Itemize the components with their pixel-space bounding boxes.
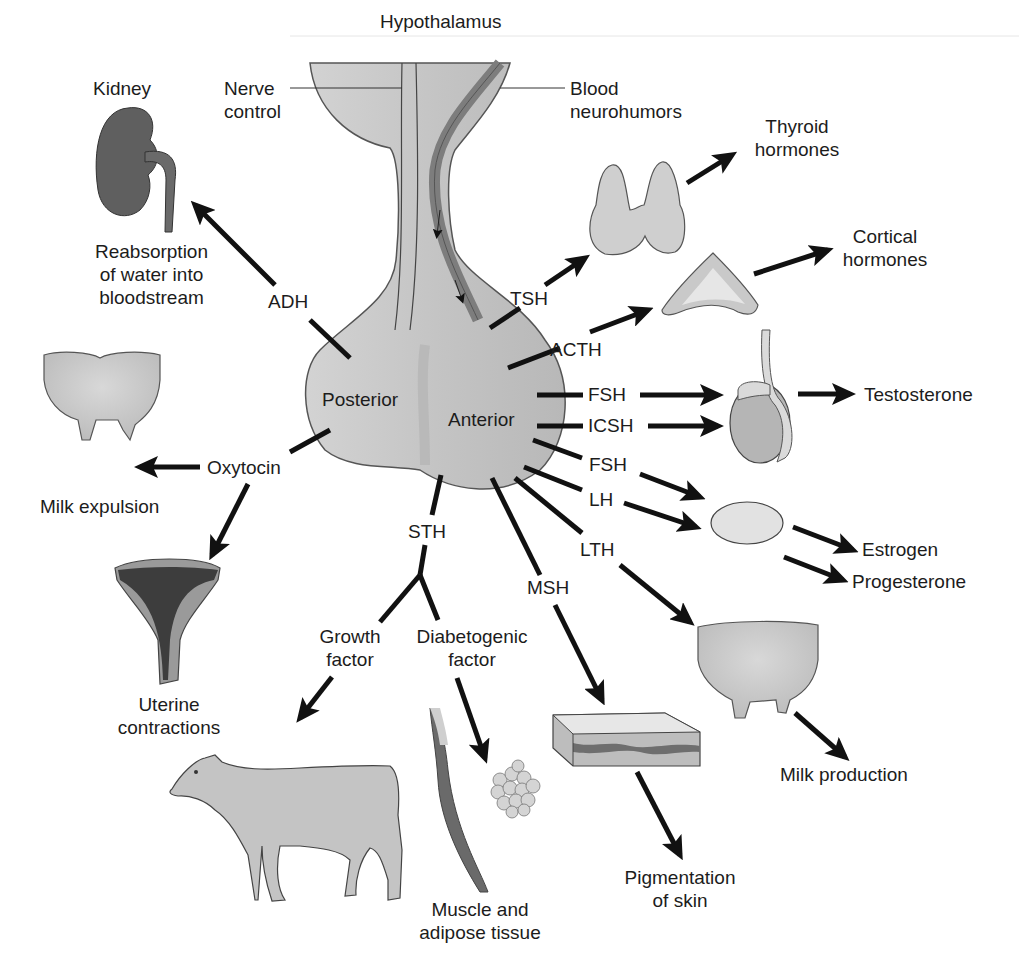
thyroid-hormones-label: Thyroid hormones [742,115,852,161]
adh-label: ADH [268,290,308,313]
testis-illustration [730,330,792,463]
anterior-lobe-label: Anterior [448,408,515,431]
nerve-control-label: Nerve control [224,77,281,123]
cortical-hormones-label: Cortical hormones [830,225,940,271]
milk-production-label: Milk production [780,763,908,786]
reabsorption-label: Reabsorption of water into bloodstream [84,240,219,309]
pituitary-hormone-diagram: Hypothalamus Nerve control Blood neurohu… [0,0,1019,974]
adrenal-illustration [662,253,758,315]
fsh-label-testis: FSH [588,383,626,406]
diabetogenic-factor-label: Diabetogenic factor [402,625,542,671]
udder-illustration-right [698,621,818,718]
lth-label: LTH [580,538,614,561]
cow-illustration [170,755,402,901]
oxytocin-label: Oxytocin [207,456,281,479]
fsh-label-ovary: FSH [589,453,627,476]
lh-label: LH [589,488,613,511]
udder-illustration-left [44,352,160,440]
sth-label: STH [408,520,446,543]
thyroid-illustration [590,162,685,255]
icsh-label: ICSH [588,414,633,437]
diagram-graphics [0,0,1019,974]
growth-factor-label: Growth factor [305,625,395,671]
progesterone-label: Progesterone [852,570,966,593]
uterus-illustration [115,559,220,684]
kidney-illustration [96,108,175,232]
posterior-lobe-label: Posterior [322,388,398,411]
testosterone-label: Testosterone [864,383,973,406]
hypothalamus-label: Hypothalamus [380,10,501,33]
pituitary-gland [306,63,566,489]
adipose-tissue-illustration [491,760,540,818]
estrogen-label: Estrogen [862,538,938,561]
pigmentation-label: Pigmentation of skin [610,866,750,912]
acth-label: ACTH [550,338,602,361]
muscle-adipose-label: Muscle and adipose tissue [410,898,550,944]
ovary-illustration [711,502,783,544]
uterine-contractions-label: Uterine contractions [100,693,238,739]
msh-label: MSH [527,576,569,599]
blood-neurohumors-label: Blood neurohumors [570,77,682,123]
skin-section-illustration [553,713,700,766]
kidney-label: Kidney [93,77,151,100]
milk-expulsion-label: Milk expulsion [40,495,159,518]
tsh-label: TSH [510,287,548,310]
